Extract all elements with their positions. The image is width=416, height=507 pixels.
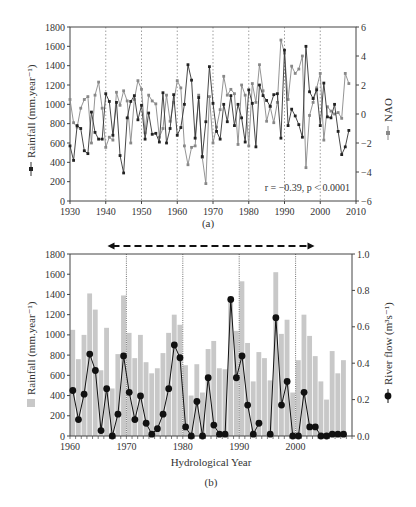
y-tick-label: 1600 — [45, 41, 65, 52]
rainfall-marker — [255, 145, 258, 148]
y2-tick-label: 0.6 — [357, 321, 370, 332]
rainfall-marker — [212, 102, 215, 105]
rainfall-marker — [347, 129, 350, 132]
river-flow-marker — [227, 296, 234, 303]
nao-marker — [86, 95, 89, 98]
rainfall-marker — [158, 141, 161, 144]
y-tick-label: 1200 — [45, 80, 65, 91]
river-flow-marker — [233, 374, 240, 381]
rainfall-marker — [76, 124, 79, 127]
rainfall-marker — [297, 123, 300, 126]
caption-a: (a) — [202, 217, 215, 230]
x-tick-label: 2010 — [346, 206, 366, 217]
rainfall-bar — [76, 359, 81, 436]
rainfall-marker — [104, 92, 107, 95]
rainfall-marker — [97, 138, 100, 141]
rainfall-bar — [127, 333, 132, 436]
river-flow-marker — [272, 314, 279, 321]
x-tick-label: 2000 — [310, 206, 330, 217]
y-axis-label-left: Rainfall (mm.year⁻¹) — [25, 64, 38, 176]
rainfall-bar — [251, 381, 256, 436]
nao-marker — [240, 84, 243, 87]
y-tick-label: 1800 — [45, 249, 65, 260]
river-flow-marker — [171, 342, 178, 349]
river-flow-marker — [98, 427, 105, 434]
nao-marker — [247, 145, 250, 148]
y2-tick-label: 0.8 — [357, 285, 370, 296]
nao-marker — [101, 107, 104, 110]
x-axis-label: Hydrological Year — [171, 456, 252, 468]
y2-tick-label: 0.2 — [357, 394, 370, 405]
rainfall-marker — [272, 93, 275, 96]
nao-marker — [280, 39, 283, 42]
nao-marker — [83, 98, 86, 101]
rainfall-bar — [149, 373, 154, 436]
rainfall-marker — [190, 79, 193, 82]
river-flow-marker — [194, 398, 201, 405]
arrow-head-left-icon — [107, 243, 114, 250]
caption-b: (b) — [205, 476, 218, 489]
nao-marker — [115, 91, 118, 94]
rainfall-bar — [70, 330, 75, 436]
rainfall-marker — [165, 142, 168, 145]
nao-marker — [255, 101, 258, 104]
x-tick-label: 1960 — [167, 206, 187, 217]
y-tick-label: 1000 — [45, 99, 65, 110]
nao-marker — [122, 89, 125, 92]
nao-marker — [301, 55, 304, 58]
rainfall-bar — [335, 373, 340, 436]
nao-marker — [183, 145, 186, 148]
y-axis-label-right: NAO — [382, 98, 394, 140]
river-flow-marker — [222, 431, 229, 438]
nao-marker — [237, 143, 240, 146]
rainfall-marker — [287, 124, 290, 127]
y-tick-label: 200 — [50, 410, 65, 421]
x-tick-label: 1980 — [239, 206, 259, 217]
legend-rainfall-swatch — [27, 399, 35, 407]
river-flow-marker — [278, 402, 285, 409]
river-flow-marker — [210, 422, 217, 429]
y-tick-label: 1400 — [45, 60, 65, 71]
river-flow-marker — [154, 425, 161, 432]
river-flow-marker — [109, 433, 116, 440]
river-flow-marker — [92, 367, 99, 374]
y-tick-label: 0 — [60, 431, 65, 442]
rainfall-marker — [140, 104, 143, 107]
rainfall-bar — [200, 393, 205, 436]
rainfall-marker — [187, 63, 190, 66]
nao-marker — [226, 94, 229, 97]
rainfall-marker — [169, 127, 172, 130]
y-tick-label: 1600 — [45, 269, 65, 280]
rainfall-marker — [244, 141, 247, 144]
nao-marker — [179, 87, 182, 90]
rainfall-marker — [83, 149, 86, 152]
svg-text:NAO: NAO — [382, 98, 394, 122]
nao-marker — [176, 79, 179, 82]
y-tick-label: 1000 — [45, 329, 65, 340]
river-flow-marker — [199, 433, 206, 440]
nao-marker — [204, 182, 207, 185]
nao-marker — [112, 139, 115, 142]
nao-marker — [140, 88, 143, 91]
rainfall-marker — [319, 124, 322, 127]
legend-nao-marker — [386, 131, 390, 135]
y-axis-label-right: River flow (m³s⁻¹) — [382, 302, 395, 403]
rainfall-bar — [166, 333, 171, 436]
river-flow-marker — [69, 387, 76, 394]
rainfall-marker — [240, 116, 243, 119]
river-flow-marker — [143, 420, 150, 427]
nao-marker — [162, 127, 165, 130]
legend-river-flow-marker — [385, 393, 392, 400]
rainfall-marker — [333, 103, 336, 106]
x-tick-label: 1960 — [60, 441, 80, 452]
nao-marker — [212, 142, 215, 145]
rainfall-marker — [305, 45, 308, 48]
rainfall-marker — [204, 120, 207, 123]
river-flow-marker — [120, 353, 127, 360]
y2-tick-label: 0 — [361, 109, 366, 120]
rainfall-marker — [119, 154, 122, 157]
rainfall-marker — [137, 118, 140, 121]
rainfall-marker — [112, 134, 115, 137]
x-tick-label: 1990 — [275, 206, 295, 217]
panel-a: 0200400600800100012001400160018006420−2−… — [25, 22, 394, 231]
